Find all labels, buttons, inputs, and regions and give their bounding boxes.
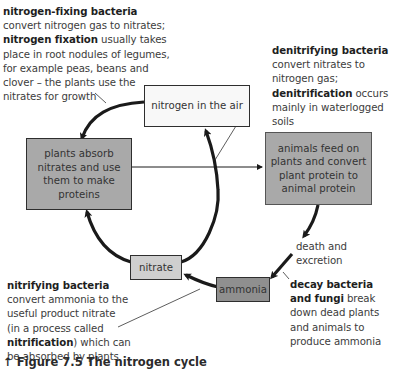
box-label-line: nitrates and use bbox=[38, 161, 121, 175]
annotation-line: useful product nitrate bbox=[7, 307, 131, 321]
decay-title: decay bacteria bbox=[290, 279, 373, 290]
box-nitrate: nitrate bbox=[130, 255, 182, 280]
annotation-denitrifying: denitrifying bacteria convert nitrates t… bbox=[272, 44, 388, 129]
box-plants: plants absorb nitrates and use them to m… bbox=[26, 138, 132, 210]
box-label-line: animals feed on bbox=[271, 142, 367, 156]
annotation-line: for example peas, beans and bbox=[3, 62, 170, 76]
nitrogen-fixation-term: nitrogen fixation bbox=[3, 34, 98, 45]
annotation-line: convert ammonia to the bbox=[7, 293, 131, 307]
nitrification-term: nitrification bbox=[7, 337, 73, 348]
arrow-death-to-ammonia bbox=[272, 254, 292, 277]
decay-title: and fungi bbox=[290, 293, 344, 304]
leader-decay bbox=[283, 272, 289, 279]
annotation-line: produce ammonia bbox=[290, 335, 381, 349]
box-label: ammonia bbox=[219, 283, 267, 297]
annotation-line: place in root nodules of legumes, bbox=[3, 48, 170, 62]
denitrifying-title: denitrifying bacteria bbox=[272, 45, 388, 56]
nitrifying-title: nitrifying bacteria bbox=[7, 280, 109, 291]
box-label-line: animal protein bbox=[271, 182, 367, 196]
box-ammonia: ammonia bbox=[216, 277, 270, 302]
box-animals: animals feed on plants and convert plant… bbox=[265, 132, 372, 205]
arrow-nitrate-to-plants bbox=[87, 212, 131, 262]
arrow-air-to-plants bbox=[82, 102, 144, 138]
annotation-line: and animals to bbox=[290, 321, 381, 335]
denitrification-term: denitrification bbox=[272, 88, 352, 99]
annotation-line: soils bbox=[272, 115, 388, 129]
annotation-line: down dead plants bbox=[290, 306, 381, 320]
annotation-line: nitrogen gas; bbox=[272, 72, 388, 86]
box-label-line: them to make bbox=[38, 174, 121, 188]
nitrogen-fixing-title: nitrogen-fixing bacteria bbox=[3, 6, 137, 17]
box-label-line: plant protein to bbox=[271, 169, 367, 183]
box-label-line: plants absorb bbox=[38, 147, 121, 161]
box-label: nitrogen in the air bbox=[151, 99, 243, 113]
box-label: nitrate bbox=[139, 261, 173, 275]
box-label-line: plants and convert bbox=[271, 155, 367, 169]
arrow-nitrate-to-air bbox=[181, 131, 218, 262]
annotation-decay: decay bacteria and fungi break down dead… bbox=[290, 278, 381, 349]
annotation-line: break bbox=[344, 293, 375, 304]
annotation-line: usually takes bbox=[98, 34, 167, 45]
annotation-line: (in a process called bbox=[7, 322, 131, 336]
arrow-ammonia-to-nitrate bbox=[186, 275, 218, 287]
annotation-line: convert nitrogen gas to nitrates; bbox=[3, 19, 170, 33]
annotation-nitrifying: nitrifying bacteria convert ammonia to t… bbox=[7, 279, 131, 364]
label-death-excretion: death and excretion bbox=[296, 240, 393, 268]
annotation-line: occurs bbox=[352, 88, 388, 99]
caption-text: Figure 7.5 The nitrogen cycle bbox=[17, 355, 207, 369]
annotation-line: convert nitrates to bbox=[272, 58, 388, 72]
up-arrow-icon: ↑ bbox=[3, 355, 13, 369]
annotation-line: mainly in waterlogged bbox=[272, 101, 388, 115]
figure-caption: ↑ Figure 7.5 The nitrogen cycle bbox=[3, 355, 207, 369]
annotation-line: ) which can bbox=[73, 337, 130, 348]
box-label-line: proteins bbox=[38, 188, 121, 202]
arrow-animals-to-death bbox=[304, 205, 318, 236]
box-nitrogen-in-air: nitrogen in the air bbox=[144, 85, 250, 127]
